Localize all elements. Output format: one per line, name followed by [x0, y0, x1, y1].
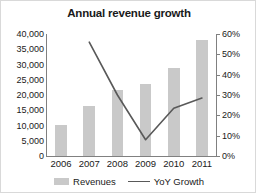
left-axis-tick-label: 5,000: [2, 136, 44, 146]
legend-label-yoy-growth: YoY Growth: [154, 176, 204, 187]
x-axis-tick-label: 2007: [79, 158, 100, 169]
right-axis-tick: [216, 136, 220, 137]
legend-label-revenues: Revenues: [73, 176, 116, 187]
right-axis-tick-label: 60%: [222, 29, 256, 39]
line-series-yoy-growth: [47, 34, 216, 156]
right-axis-tick-label: 50%: [222, 49, 256, 59]
right-axis-tick: [216, 156, 220, 157]
left-axis-tick-label: 25,000: [2, 75, 44, 85]
left-axis-tick-label: 10,000: [2, 121, 44, 131]
x-axis-tick-label: 2011: [192, 158, 212, 169]
left-axis-tick-label: 35,000: [2, 44, 44, 54]
right-axis-tick-label: 40%: [222, 70, 256, 80]
chart-legend: Revenues YoY Growth: [1, 173, 256, 189]
right-axis-tick-label: 10%: [222, 131, 256, 141]
right-axis-tick: [216, 75, 220, 76]
left-axis-tick-label: 0: [2, 151, 44, 161]
right-axis-tick-label: 30%: [222, 90, 256, 100]
x-axis-tick-label: 2009: [135, 158, 156, 169]
left-axis-tick-label: 40,000: [2, 29, 44, 39]
left-axis-labels: 05,00010,00015,00020,00025,00030,00035,0…: [1, 1, 44, 193]
x-axis-tick-label: 2006: [51, 158, 72, 169]
left-axis-tick-label: 30,000: [2, 60, 44, 70]
x-axis-tick-label: 2010: [163, 158, 184, 169]
left-axis-tick-label: 15,000: [2, 105, 44, 115]
bar-swatch-icon: [54, 178, 69, 185]
right-axis-tick: [216, 34, 220, 35]
x-axis-line: [46, 156, 217, 157]
legend-item-revenues: Revenues: [54, 176, 116, 187]
right-axis-tick: [216, 95, 220, 96]
x-axis-labels: 200620072008200920102011: [47, 158, 216, 172]
right-axis-tick-label: 20%: [222, 110, 256, 120]
plot-area: [47, 34, 216, 156]
right-axis-tick: [216, 54, 220, 55]
right-axis-tick: [216, 115, 220, 116]
annual-revenue-growth-chart: Annual revenue growth 05,00010,00015,000…: [0, 0, 256, 193]
line-swatch-icon: [128, 181, 150, 182]
left-axis-tick-label: 20,000: [2, 90, 44, 100]
x-axis-tick-label: 2008: [107, 158, 128, 169]
right-axis-tick-label: 0%: [222, 151, 256, 161]
right-axis-labels: 0%10%20%30%40%50%60%: [222, 1, 256, 193]
legend-item-yoy-growth: YoY Growth: [128, 176, 204, 187]
